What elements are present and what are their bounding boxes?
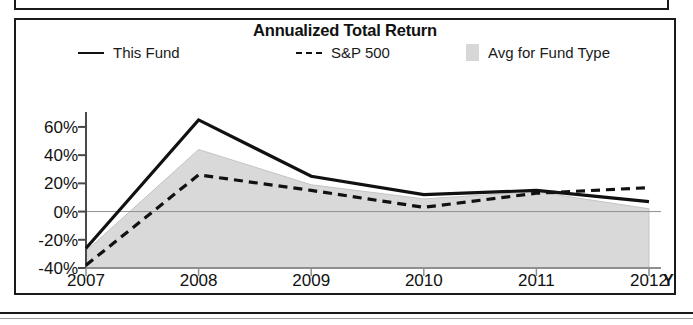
annualized-total-return-chart-card: Annualized Total Return This Fund S&P 50… <box>14 18 676 295</box>
y-tick-label: 0% <box>53 203 78 222</box>
x-axis-ticks <box>86 268 649 276</box>
x-axis-tick-labels: 2007 2008 2009 2010 2011 2012 YTD <box>67 271 674 290</box>
x-tick-label: 2008 <box>180 271 218 290</box>
x-tick-label: 2007 <box>67 271 105 290</box>
x-tick-label: 2011 <box>518 271 555 290</box>
legend-item-this-fund: This Fund <box>78 44 180 61</box>
legend-label-avg-for-fund-type: Avg for Fund Type <box>488 44 610 61</box>
x-tick-label: 2010 <box>405 271 443 290</box>
legend-item-sp500: S&P 500 <box>296 44 390 61</box>
y-tick-label: 40% <box>44 146 78 165</box>
page-divider-thick <box>0 312 693 314</box>
x-axis-ytd-label: YTD <box>663 272 674 289</box>
y-axis-ticks <box>78 127 86 268</box>
partial-panel-above <box>14 0 669 10</box>
y-axis-tick-labels: 60% 40% 20% 0% -20% -40% <box>38 118 78 278</box>
solid-line-icon <box>78 52 104 54</box>
plot-area: 60% 40% 20% 0% -20% -40% 2007 2008 2009 … <box>16 68 674 293</box>
legend-label-this-fund: This Fund <box>113 44 180 61</box>
y-tick-label: 20% <box>44 174 78 193</box>
chart-title: Annualized Total Return <box>16 21 674 40</box>
page-divider-thin <box>0 318 693 319</box>
y-tick-label: -20% <box>38 231 78 250</box>
return-line-chart: 60% 40% 20% 0% -20% -40% 2007 2008 2009 … <box>16 68 674 293</box>
chart-legend: This Fund S&P 500 Avg for Fund Type <box>16 44 674 68</box>
x-tick-label: 2009 <box>292 271 330 290</box>
avg-fund-type-band <box>86 150 649 269</box>
legend-item-avg-for-fund-type: Avg for Fund Type <box>466 44 610 61</box>
y-tick-label: 60% <box>44 118 78 137</box>
legend-label-sp500: S&P 500 <box>331 44 390 61</box>
dashed-line-icon <box>296 52 322 54</box>
gray-swatch-icon <box>466 44 479 61</box>
